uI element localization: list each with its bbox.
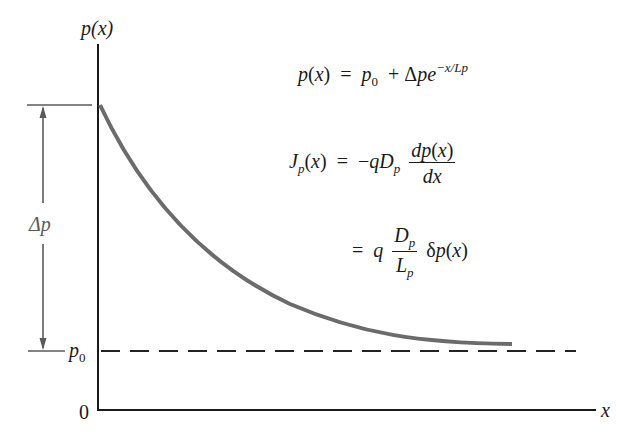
equation-diffusion-current: Jp(x) = −qDp dp(x) dx [289, 140, 459, 186]
p0-subscript: 0 [79, 350, 86, 365]
dp-lp-fraction: Dp Lp [392, 225, 417, 279]
x-axis-label: x [601, 400, 610, 420]
origin-label: 0 [79, 402, 89, 422]
delta-p-label: Δp [29, 214, 51, 234]
y-axis-label: p(x) [81, 18, 113, 38]
arrowhead-up-icon [40, 106, 47, 118]
equation-concentration: p(x) = p0 + Δpe−x/Lp [298, 61, 468, 88]
equation-current-simplified: = q Dp Lp δp(x) [352, 225, 468, 279]
p0-label: p0 [69, 340, 86, 364]
eq1-lhs: p [298, 63, 308, 85]
arrowhead-down-icon [40, 338, 47, 350]
p0-label-text: p [69, 339, 79, 361]
derivative-fraction: dp(x) dx [409, 140, 455, 186]
